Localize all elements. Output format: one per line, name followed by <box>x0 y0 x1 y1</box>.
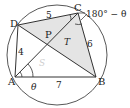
point-p-label: P <box>45 29 52 40</box>
cyclic-quadrilateral-diagram: A B C D P 5 4 6 7 θ 180° − θ T S <box>0 0 130 108</box>
region-t-label: T <box>64 37 71 47</box>
vertex-c-label: C <box>74 2 82 13</box>
side-ad-length: 4 <box>18 47 24 57</box>
angle-c-label: 180° − θ <box>86 9 126 19</box>
side-dc-length: 5 <box>46 10 52 20</box>
side-cb-length: 6 <box>87 39 93 49</box>
vertex-d-label: D <box>10 18 18 29</box>
angle-arc-a-inner <box>20 72 22 77</box>
side-ab-length: 7 <box>56 80 62 90</box>
vertex-a-label: A <box>7 76 16 87</box>
angle-a-label: θ <box>31 82 37 92</box>
region-s-label: S <box>39 58 45 68</box>
angle-arc-a-theta <box>28 64 33 77</box>
vertex-b-label: B <box>98 76 105 87</box>
